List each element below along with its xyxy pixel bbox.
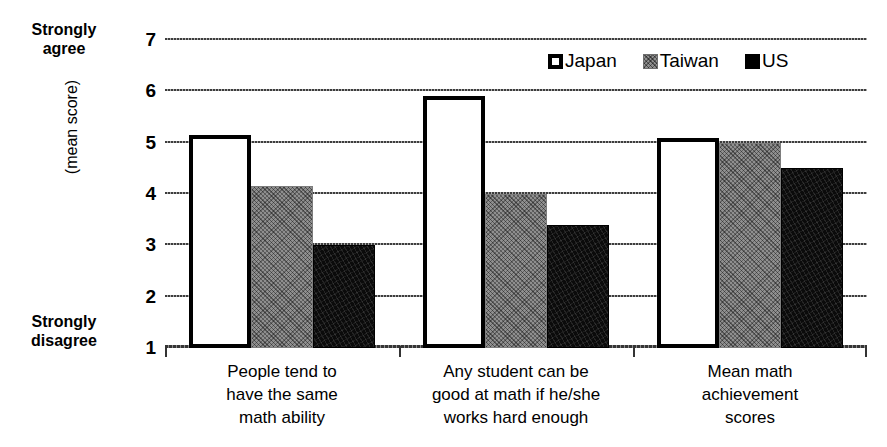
legend-item-us[interactable]: US: [745, 50, 788, 72]
us-swatch-icon: [745, 54, 760, 69]
bar-taiwan-group2: [485, 194, 547, 348]
legend-item-japan[interactable]: Japan: [548, 50, 617, 72]
japan-swatch-icon: [548, 54, 563, 69]
x-category-label-1-line1: People tend to: [165, 360, 399, 383]
axis-anchor-low: Strongly disagree: [4, 312, 124, 350]
y-tick-label-4: 4: [134, 184, 156, 203]
y-tick-label-5: 5: [134, 133, 156, 152]
y-axis-tick-labels: 1234567: [134, 0, 156, 447]
bar-group-3: [633, 40, 867, 348]
axis-anchor-high-line1: Strongly: [4, 20, 124, 39]
bar-japan-group1: [189, 135, 251, 348]
chart-legend: JapanTaiwanUS: [548, 50, 788, 72]
y-tick-label-1: 1: [134, 338, 156, 357]
bar-us-group1: [313, 245, 375, 348]
x-category-label-3: Mean mathachievementscores: [633, 360, 867, 429]
x-category-label-2-line2: good at math if he/she: [399, 383, 633, 406]
bars-layer: [165, 40, 867, 348]
taiwan-swatch-icon: [643, 54, 658, 69]
bar-group-2: [399, 40, 633, 348]
x-category-label-2-line1: Any student can be: [399, 360, 633, 383]
x-category-label-2-line3: works hard enough: [399, 406, 633, 429]
x-category-label-3-line1: Mean math: [633, 360, 867, 383]
bar-group-1: [165, 40, 399, 348]
x-category-label-3-line2: achievement: [633, 383, 867, 406]
bar-us-group3: [781, 168, 843, 348]
y-tick-label-3: 3: [134, 235, 156, 254]
bar-japan-group2: [423, 96, 485, 348]
x-category-label-2: Any student can begood at math if he/she…: [399, 360, 633, 429]
legend-label-us: US: [762, 50, 788, 72]
y-tick-label-2: 2: [134, 287, 156, 306]
axis-anchor-low-line1: Strongly: [4, 312, 124, 331]
x-category-label-3-line3: scores: [633, 406, 867, 429]
x-category-label-1-line2: have the same: [165, 383, 399, 406]
bar-taiwan-group3: [719, 143, 781, 348]
bar-taiwan-group1: [251, 186, 313, 348]
x-axis-category-labels: People tend tohave the samemath abilityA…: [165, 360, 867, 440]
plot-area: [165, 40, 867, 348]
legend-label-taiwan: Taiwan: [660, 50, 719, 72]
legend-label-japan: Japan: [565, 50, 617, 72]
bar-japan-group3: [657, 138, 719, 348]
bar-us-group2: [547, 225, 609, 348]
y-tick-label-6: 6: [134, 81, 156, 100]
legend-item-taiwan[interactable]: Taiwan: [643, 50, 719, 72]
y-tick-label-7: 7: [134, 30, 156, 49]
bar-chart: Strongly agree Strongly disagree (mean s…: [0, 0, 887, 447]
axis-anchor-low-line2: disagree: [4, 331, 124, 350]
x-category-label-1-line3: math ability: [165, 406, 399, 429]
x-category-label-1: People tend tohave the samemath ability: [165, 360, 399, 429]
y-axis-title: (mean score): [63, 47, 81, 207]
